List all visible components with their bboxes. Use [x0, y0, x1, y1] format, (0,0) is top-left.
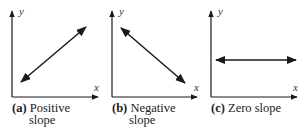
panel-b-x-label: x — [193, 81, 199, 93]
panel-c-y-label: y — [217, 5, 223, 17]
panel-c-letter: (c) — [211, 101, 225, 115]
panel-b-caption: (b) Negative slope — [112, 102, 176, 126]
panel-b-negative-line — [121, 28, 185, 83]
panel-b-y-label: y — [118, 5, 124, 17]
panel-b-caption-line2: slope — [112, 114, 176, 126]
panel-c-caption-line1: Zero slope — [228, 101, 281, 115]
panel-a-positive-line — [21, 27, 86, 82]
panel-a-caption-line2: slope — [12, 114, 70, 126]
panel-c-zero-slope: y x — [211, 5, 298, 97]
panel-b-letter: (b) — [112, 101, 127, 115]
panel-c-caption: (c) Zero slope — [211, 102, 281, 114]
panel-a-letter: (a) — [12, 101, 27, 115]
panel-a-positive-slope: y x — [12, 5, 99, 97]
panel-a-caption: (a) Positive slope — [12, 102, 70, 126]
panel-a-y-label: y — [18, 5, 24, 17]
panel-b-negative-slope: y x — [112, 5, 199, 97]
panel-c-x-label: x — [292, 81, 298, 93]
slope-diagram: y x y x y x (a) Positive slope (b) Negat… — [0, 0, 308, 132]
panel-a-x-label: x — [93, 81, 99, 93]
